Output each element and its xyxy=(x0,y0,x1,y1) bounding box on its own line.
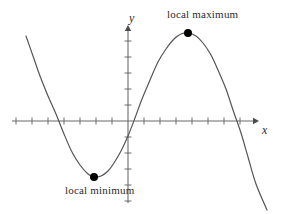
y-axis-group xyxy=(125,25,132,203)
x-axis-group xyxy=(12,118,259,125)
local-maximum-label: local maximum xyxy=(167,8,238,20)
graph-figure: local maximum local minimum x y xyxy=(0,0,284,214)
local-minimum-label: local minimum xyxy=(65,184,135,196)
plot-canvas xyxy=(0,0,284,214)
y-axis-label: y xyxy=(129,11,135,26)
x-axis-label: x xyxy=(262,123,268,138)
x-axis-arrowhead xyxy=(253,118,259,124)
local-minimum-point xyxy=(90,173,98,181)
local-maximum-point xyxy=(184,29,192,37)
